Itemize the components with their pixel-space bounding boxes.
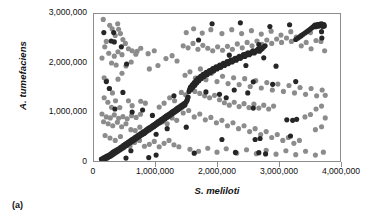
scatter-point xyxy=(186,45,191,50)
scatter-point xyxy=(279,40,284,45)
scatter-point xyxy=(119,71,124,76)
scatter-point xyxy=(271,104,276,109)
scatter-point xyxy=(171,93,176,98)
scatter-point xyxy=(299,43,304,48)
scatter-point xyxy=(263,43,268,48)
scatter-point xyxy=(147,66,152,71)
scatter-point xyxy=(107,135,112,140)
scatter-point xyxy=(281,89,286,94)
scatter-point xyxy=(123,121,128,126)
scatter-point xyxy=(99,56,104,61)
scatter-point xyxy=(274,36,279,41)
scatter-point xyxy=(319,29,324,34)
scatter-point xyxy=(308,112,313,117)
scatter-point xyxy=(309,46,314,51)
scatter-point xyxy=(273,152,278,157)
scatter-point xyxy=(118,134,123,139)
y-tick-label: 1,000,000 xyxy=(29,106,87,116)
scatter-point xyxy=(102,44,107,49)
scatter-point xyxy=(313,127,318,132)
scatter-point xyxy=(102,133,107,138)
scatter-point xyxy=(101,30,106,35)
scatter-point xyxy=(230,120,235,125)
scatter-point xyxy=(286,83,291,88)
scatter-point xyxy=(253,137,258,142)
scatter-plot-figure: 01,000,0002,000,0003,000,000 A. tumefaci… xyxy=(0,0,373,220)
scatter-point xyxy=(118,31,123,36)
scatter-point xyxy=(297,138,302,143)
scatter-point xyxy=(190,41,195,46)
scatter-point xyxy=(119,52,124,57)
scatter-point xyxy=(203,89,208,94)
scatter-point xyxy=(224,146,229,151)
scatter-point xyxy=(106,51,111,56)
scatter-point xyxy=(217,92,222,97)
scatter-point xyxy=(126,98,131,103)
scatter-point xyxy=(219,31,224,36)
scatter-point xyxy=(240,45,245,50)
scatter-point xyxy=(99,111,104,116)
figure-caption: (a) xyxy=(12,200,23,210)
scatter-point xyxy=(128,148,133,153)
scatter-point xyxy=(115,120,120,125)
scatter-point xyxy=(192,114,197,119)
scatter-point xyxy=(229,27,234,32)
scatter-point xyxy=(264,129,269,134)
scatter-point xyxy=(150,113,155,118)
scatter-point xyxy=(186,108,191,113)
scatter-point xyxy=(116,27,121,32)
scatter-point xyxy=(264,37,269,42)
scatter-point xyxy=(187,69,192,74)
scatter-point xyxy=(284,117,289,122)
scatter-point xyxy=(113,138,118,143)
scatter-point xyxy=(152,139,157,144)
scatter-point xyxy=(155,63,160,68)
scatter-point xyxy=(222,100,227,105)
scatter-point xyxy=(287,22,292,27)
scatter-point xyxy=(235,41,240,46)
scatter-point xyxy=(323,115,328,120)
scatter-point xyxy=(270,82,275,87)
scatter-point xyxy=(200,31,205,36)
scatter-point xyxy=(243,63,248,68)
scatter-point xyxy=(309,86,314,91)
scatter-point xyxy=(291,141,296,146)
scatter-point xyxy=(119,44,124,49)
scatter-point xyxy=(187,147,192,152)
scatter-point xyxy=(244,147,249,152)
scatter-point xyxy=(113,98,118,103)
scatter-point xyxy=(225,81,230,86)
scatter-point xyxy=(253,126,258,131)
scatter-point xyxy=(214,150,219,155)
scatter-point xyxy=(215,44,220,49)
scatter-point xyxy=(184,125,189,130)
scatter-point xyxy=(197,111,202,116)
scatter-point xyxy=(284,35,289,40)
scatter-point xyxy=(231,75,236,80)
scatter-point xyxy=(191,26,196,31)
scatter-point xyxy=(196,37,201,42)
scatter-point xyxy=(134,115,139,120)
scatter-point xyxy=(280,138,285,143)
scatter-point xyxy=(101,17,106,22)
scatter-point xyxy=(195,47,200,52)
scatter-point xyxy=(157,144,162,149)
scatter-point xyxy=(261,103,266,108)
scatter-point xyxy=(257,136,262,141)
y-tick-label: 2,000,000 xyxy=(29,57,87,67)
scatter-point xyxy=(101,119,106,124)
scatter-point xyxy=(171,142,176,147)
scatter-point xyxy=(275,132,280,137)
scatter-point xyxy=(278,33,283,38)
scatter-point xyxy=(266,106,271,111)
scatter-point xyxy=(115,77,120,82)
scatter-point xyxy=(133,52,138,57)
scatter-point xyxy=(110,90,115,95)
scatter-point xyxy=(245,40,250,45)
scatter-point xyxy=(162,141,167,146)
scatter-point xyxy=(107,86,112,91)
scatter-point xyxy=(219,137,224,142)
scatter-point xyxy=(267,24,272,29)
scatter-point xyxy=(170,53,175,58)
scatter-point xyxy=(214,120,219,125)
